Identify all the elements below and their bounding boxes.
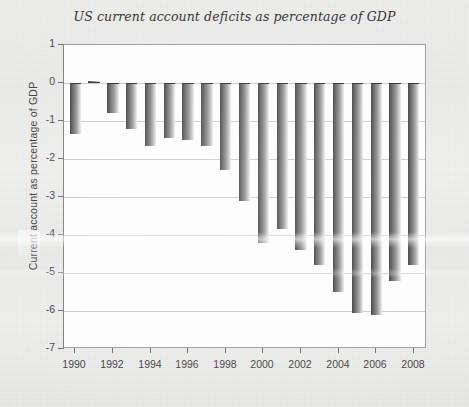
y-tick xyxy=(58,348,63,349)
bar-2003 xyxy=(314,83,325,265)
y-axis-line xyxy=(63,44,64,349)
bar-1991 xyxy=(88,81,99,83)
y-tick xyxy=(58,310,63,311)
y-tick-label: -5 xyxy=(33,265,55,277)
x-tick-label: 2004 xyxy=(318,358,358,370)
bar-2006 xyxy=(371,83,382,315)
y-tick xyxy=(58,82,63,83)
x-tick xyxy=(413,348,414,353)
y-tick-label: -1 xyxy=(33,113,55,125)
y-tick-label: -7 xyxy=(33,341,55,353)
x-tick xyxy=(300,348,301,353)
bar-1993 xyxy=(126,83,137,129)
x-tick xyxy=(225,348,226,353)
x-tick-label: 2000 xyxy=(242,358,282,370)
x-tick xyxy=(262,348,263,353)
bar-2000 xyxy=(258,83,269,243)
bar-2008 xyxy=(408,83,419,265)
bar-2002 xyxy=(295,83,306,250)
y-tick xyxy=(58,120,63,121)
x-tick-label: 1992 xyxy=(92,358,132,370)
y-tick xyxy=(58,234,63,235)
bar-1997 xyxy=(201,83,212,146)
x-tick-label: 2006 xyxy=(355,358,395,370)
x-tick-label: 1994 xyxy=(130,358,170,370)
y-axis-title: Current account as percentage of GDP xyxy=(27,61,39,291)
y-tick-label: 0 xyxy=(33,75,55,87)
x-tick xyxy=(375,348,376,353)
bar-2005 xyxy=(352,83,363,313)
bar-1995 xyxy=(164,83,175,138)
y-tick xyxy=(58,272,63,273)
y-tick-label: -6 xyxy=(33,303,55,315)
bar-chart: Current account as percentage of GDP 10-… xyxy=(0,0,469,407)
bar-1996 xyxy=(182,83,193,140)
bar-2007 xyxy=(389,83,400,281)
x-tick xyxy=(338,348,339,353)
bar-2004 xyxy=(333,83,344,292)
y-tick-label: -4 xyxy=(33,227,55,239)
bar-1992 xyxy=(107,83,118,113)
bar-1998 xyxy=(220,83,231,170)
x-tick xyxy=(150,348,151,353)
x-tick-label: 1990 xyxy=(54,358,94,370)
x-tick xyxy=(187,348,188,353)
bar-2001 xyxy=(277,83,288,229)
bar-1999 xyxy=(239,83,250,201)
y-tick-label: 1 xyxy=(33,37,55,49)
x-tick xyxy=(112,348,113,353)
x-tick-label: 2008 xyxy=(393,358,433,370)
y-tick-label: -3 xyxy=(33,189,55,201)
plot-area xyxy=(63,44,426,348)
bar-1990 xyxy=(70,83,81,134)
bar-1994 xyxy=(145,83,156,146)
y-tick xyxy=(58,158,63,159)
y-tick xyxy=(58,44,63,45)
x-tick-label: 1996 xyxy=(167,358,207,370)
x-tick xyxy=(74,348,75,353)
x-tick-label: 2002 xyxy=(280,358,320,370)
x-tick-label: 1998 xyxy=(205,358,245,370)
y-tick-label: -2 xyxy=(33,151,55,163)
y-tick xyxy=(58,196,63,197)
